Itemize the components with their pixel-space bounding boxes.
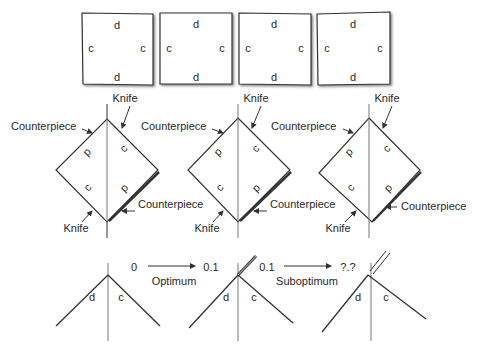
diagram-canvas: d d c c d d c c d d c c d d c c Knife Co… [0,0,479,349]
diamond-3-counterpiece-bottom: Counterpiece [401,200,466,212]
angle-1-right-label: c [118,291,124,303]
transition-suboptimum: 0.1 ?.? Suboptimum [259,261,355,287]
diamond-1-knife-bottom: Knife [63,222,88,234]
square-2-bottom-label: d [193,71,199,83]
square-4-left-label: c [324,42,330,54]
square-1: d d c c [82,13,153,85]
transition-2-to: ?.? [340,261,355,273]
square-1-right-label: c [140,42,146,54]
square-2-top-label: d [193,18,199,30]
diamond-3-knife-bottom: Knife [325,222,350,234]
diamond-2: Knife Counterpiece Counterpiece Knife d … [141,92,335,238]
angle-3: d c [322,251,426,341]
diamond-3-knife-top: Knife [374,92,399,104]
diamond-3-counterpiece-top: Counterpiece [271,120,336,132]
diamond-2-counterpiece-bottom: Counterpiece [270,198,335,210]
diamond-1-knife-top: Knife [112,92,137,104]
square-1-bottom-label: d [114,71,120,83]
transition-1-from: 0 [131,261,137,273]
square-3-right-label: c [298,42,304,54]
transition-2-label: Suboptimum [276,275,338,287]
square-4-top-label: d [350,18,356,30]
square-2: d d c c [160,13,232,84]
diamond-2-knife-bottom: Knife [194,222,219,234]
square-4-bottom-label: d [350,71,356,83]
transition-1-to: 0.1 [203,261,218,273]
square-3-bottom-label: d [271,71,277,83]
diamond-1: Knife Counterpiece Counterpiece Knife d … [11,92,203,238]
transition-1-label: Optimum [152,275,197,287]
square-4: d d c c [317,12,390,85]
angle-2-right-label: c [251,291,257,303]
square-4-right-label: c [377,42,383,54]
diamond-1-counterpiece-bottom: Counterpiece [138,198,203,210]
angle-3-right-label: c [383,291,389,303]
transition-optimum: 0 0.1 Optimum [131,261,219,287]
angle-1: d c [56,263,160,341]
square-1-left-label: c [88,42,94,54]
square-1-top-label: d [114,19,120,31]
diamond-3: Knife Counterpiece Counterpiece Knife d … [271,92,466,238]
square-3-left-label: c [245,42,251,54]
square-2-left-label: c [166,42,172,54]
angle-1-left-label: d [89,291,95,303]
square-3-top-label: d [271,18,277,30]
transition-2-from: 0.1 [259,261,274,273]
diamond-2-knife-top: Knife [243,92,268,104]
angle-3-left-label: d [355,291,361,303]
diamond-1-counterpiece-top: Counterpiece [11,120,76,132]
angle-2-left-label: d [223,291,229,303]
square-3: d d c c [239,13,311,85]
diamond-2-counterpiece-top: Counterpiece [141,120,206,132]
square-2-right-label: c [219,42,225,54]
